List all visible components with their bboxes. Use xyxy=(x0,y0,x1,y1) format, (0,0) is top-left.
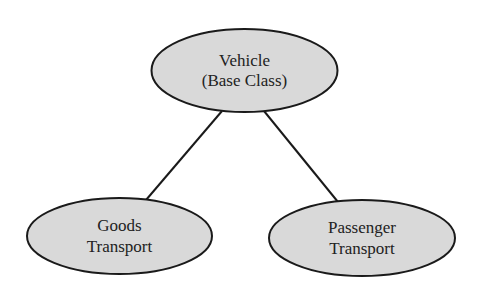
node-passenger-line2: Transport xyxy=(329,239,395,258)
node-passenger-line1: Passenger xyxy=(328,218,396,237)
node-passenger-ellipse xyxy=(269,200,455,276)
node-vehicle-base-class: Vehicle (Base Class) xyxy=(152,29,338,112)
node-goods-line2: Transport xyxy=(87,237,153,256)
edge-vehicle-to-passenger xyxy=(264,111,338,202)
node-goods-ellipse xyxy=(27,198,212,274)
edge-vehicle-to-goods xyxy=(146,111,222,200)
node-vehicle-title: Vehicle xyxy=(219,51,270,70)
node-vehicle-subtitle: (Base Class) xyxy=(202,71,287,90)
node-goods-transport: Goods Transport xyxy=(27,198,212,274)
class-hierarchy-diagram: Vehicle (Base Class) Goods Transport Pas… xyxy=(0,0,481,287)
node-passenger-transport: Passenger Transport xyxy=(269,200,455,276)
node-goods-line1: Goods xyxy=(97,216,141,235)
